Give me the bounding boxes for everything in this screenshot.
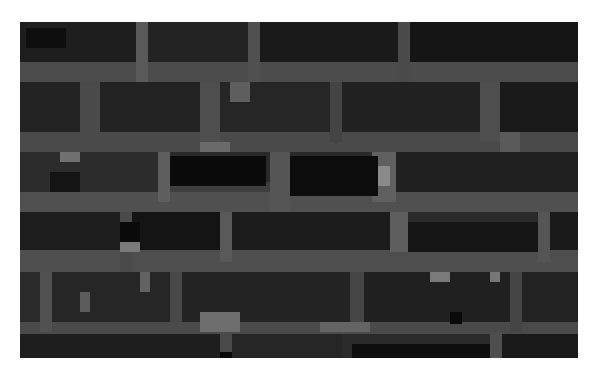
mortar-block: [270, 152, 290, 212]
mortar-block: [80, 82, 100, 142]
shadow-block: [450, 312, 462, 324]
brick-block: [148, 22, 248, 62]
brick-block: [232, 334, 342, 358]
mortar-block: [510, 272, 522, 332]
mortar-block: [330, 82, 342, 142]
highlight-block: [60, 152, 80, 162]
mortar-block: [398, 22, 410, 82]
mortar-block: [248, 22, 260, 82]
mortar-block: [20, 250, 578, 272]
mortar-block: [220, 212, 232, 262]
highlight-block: [200, 312, 240, 332]
highlight-block: [320, 322, 370, 332]
mortar-block: [490, 332, 502, 358]
mortar-block: [20, 62, 578, 82]
brick-block: [352, 344, 490, 358]
highlight-block: [80, 292, 90, 312]
brick-block: [500, 82, 578, 132]
brick-block: [410, 22, 578, 62]
brick-block: [232, 212, 390, 250]
highlight-block: [500, 132, 520, 152]
shadow-block: [50, 172, 80, 192]
brick-block: [132, 212, 220, 250]
brick-block: [20, 334, 220, 358]
brick-wall-image: [20, 22, 578, 358]
mortar-block: [40, 272, 52, 332]
shadow-block: [120, 222, 140, 242]
highlight-block: [230, 82, 250, 102]
brick-block: [522, 272, 578, 322]
brick-block: [20, 152, 158, 192]
highlight-block: [430, 272, 450, 282]
brick-block: [396, 152, 578, 192]
brick-block: [290, 156, 378, 196]
brick-block: [100, 82, 200, 132]
mortar-block: [480, 82, 500, 142]
highlight-block: [140, 272, 150, 292]
brick-block: [52, 272, 170, 322]
shadow-block: [220, 352, 232, 358]
brick-block: [170, 156, 266, 186]
mortar-block: [136, 22, 148, 82]
brick-block: [342, 82, 480, 132]
shadow-block: [26, 28, 66, 48]
highlight-block: [490, 272, 500, 282]
highlight-block: [200, 142, 230, 152]
brick-block: [550, 212, 578, 250]
highlight-block: [378, 166, 390, 186]
mortar-block: [170, 272, 182, 322]
mortar-block: [538, 212, 550, 262]
brick-block: [20, 82, 80, 132]
brick-block: [502, 334, 578, 358]
brick-block: [408, 222, 538, 252]
mortar-block: [390, 212, 408, 252]
mortar-block: [158, 152, 170, 202]
highlight-block: [120, 242, 140, 252]
brick-block: [260, 22, 398, 62]
brick-block: [20, 212, 120, 250]
